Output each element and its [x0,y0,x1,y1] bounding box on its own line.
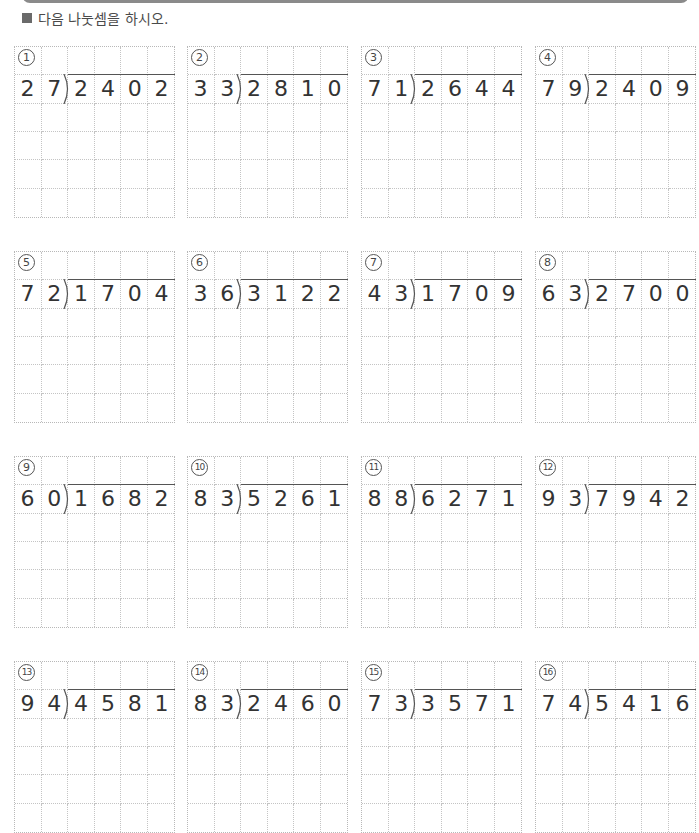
grid-cell[interactable] [442,394,469,422]
grid-cell[interactable] [188,804,215,832]
grid-cell[interactable] [642,514,669,542]
grid-cell[interactable] [362,189,389,217]
grid-cell[interactable] [563,542,590,570]
grid-cell[interactable] [42,160,69,188]
grid-cell[interactable] [268,337,295,365]
grid-cell[interactable] [294,804,321,832]
grid-cell[interactable] [415,394,442,422]
grid-cell[interactable] [642,719,669,747]
grid-cell[interactable] [121,365,148,393]
grid-cell[interactable] [563,160,590,188]
grid-cell[interactable] [415,189,442,217]
grid-cell[interactable] [42,104,69,132]
grid-cell[interactable] [589,160,616,188]
grid-cell[interactable] [42,542,69,570]
grid-cell[interactable] [68,599,95,627]
grid-cell[interactable] [215,599,242,627]
grid-cell[interactable] [389,309,416,337]
grid-cell[interactable] [121,514,148,542]
grid-cell[interactable] [241,719,268,747]
grid-cell[interactable] [215,804,242,832]
grid-cell[interactable] [241,394,268,422]
grid-cell[interactable] [188,599,215,627]
grid-cell[interactable] [148,189,175,217]
grid-cell[interactable] [268,775,295,803]
grid-cell[interactable] [68,514,95,542]
grid-cell[interactable] [669,189,696,217]
grid-cell[interactable] [268,599,295,627]
grid-cell[interactable] [15,775,42,803]
grid-cell[interactable] [241,804,268,832]
grid-cell[interactable] [148,719,175,747]
grid-cell[interactable] [121,747,148,775]
grid-cell[interactable] [241,132,268,160]
grid-cell[interactable] [442,132,469,160]
grid-cell[interactable] [589,365,616,393]
grid-cell[interactable] [442,160,469,188]
grid-cell[interactable] [95,337,122,365]
grid-cell[interactable] [321,719,348,747]
grid-cell[interactable] [148,337,175,365]
grid-cell[interactable] [241,542,268,570]
grid-cell[interactable] [563,132,590,160]
grid-cell[interactable] [616,365,643,393]
grid-cell[interactable] [321,394,348,422]
grid-cell[interactable] [148,309,175,337]
grid-cell[interactable] [468,337,495,365]
grid-cell[interactable] [68,719,95,747]
grid-cell[interactable] [536,804,563,832]
grid-cell[interactable] [642,132,669,160]
grid-cell[interactable] [294,514,321,542]
grid-cell[interactable] [121,104,148,132]
grid-cell[interactable] [389,542,416,570]
grid-cell[interactable] [42,365,69,393]
grid-cell[interactable] [215,337,242,365]
grid-cell[interactable] [616,337,643,365]
grid-cell[interactable] [563,514,590,542]
grid-cell[interactable] [42,747,69,775]
grid-cell[interactable] [669,309,696,337]
grid-cell[interactable] [589,189,616,217]
grid-cell[interactable] [268,160,295,188]
grid-cell[interactable] [389,365,416,393]
grid-cell[interactable] [121,309,148,337]
grid-cell[interactable] [495,570,522,598]
grid-cell[interactable] [68,160,95,188]
grid-cell[interactable] [642,394,669,422]
grid-cell[interactable] [442,104,469,132]
grid-cell[interactable] [642,775,669,803]
grid-cell[interactable] [294,599,321,627]
grid-cell[interactable] [669,514,696,542]
grid-cell[interactable] [68,309,95,337]
grid-cell[interactable] [495,747,522,775]
grid-cell[interactable] [68,132,95,160]
grid-cell[interactable] [468,514,495,542]
grid-cell[interactable] [294,747,321,775]
grid-cell[interactable] [121,804,148,832]
grid-cell[interactable] [294,570,321,598]
grid-cell[interactable] [188,570,215,598]
grid-cell[interactable] [95,132,122,160]
grid-cell[interactable] [148,542,175,570]
grid-cell[interactable] [268,394,295,422]
grid-cell[interactable] [642,160,669,188]
grid-cell[interactable] [188,104,215,132]
grid-cell[interactable] [215,394,242,422]
grid-cell[interactable] [362,570,389,598]
grid-cell[interactable] [268,804,295,832]
grid-cell[interactable] [616,804,643,832]
grid-cell[interactable] [536,337,563,365]
grid-cell[interactable] [442,599,469,627]
grid-cell[interactable] [268,189,295,217]
grid-cell[interactable] [95,189,122,217]
grid-cell[interactable] [121,719,148,747]
grid-cell[interactable] [415,160,442,188]
grid-cell[interactable] [321,570,348,598]
grid-cell[interactable] [15,804,42,832]
grid-cell[interactable] [642,309,669,337]
grid-cell[interactable] [121,160,148,188]
grid-cell[interactable] [15,337,42,365]
grid-cell[interactable] [68,775,95,803]
grid-cell[interactable] [215,747,242,775]
grid-cell[interactable] [188,394,215,422]
